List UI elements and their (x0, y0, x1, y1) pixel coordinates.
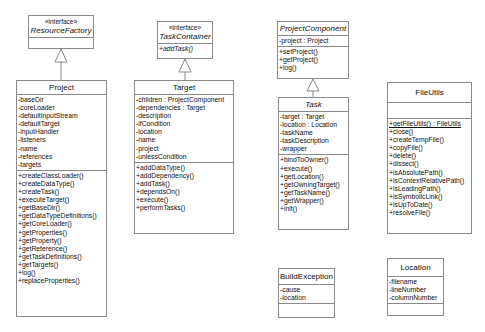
class-header: FileUtils (388, 83, 471, 103)
attribute: -name (18, 145, 105, 153)
operations-section: +bindToOwner() +execute() +getLocation()… (279, 155, 348, 214)
attribute: -listeners (18, 136, 105, 144)
operation: +setProject() (279, 48, 347, 56)
attribute: -coreLoader (18, 104, 105, 112)
attribute: -defaultInputStream (18, 112, 105, 120)
operation: +execute() (280, 165, 347, 173)
class-header: «interface» TaskContainer (158, 22, 212, 44)
class-header: Task (279, 98, 348, 112)
operation: +execute() (136, 196, 232, 204)
class-target[interactable]: Target -children : ProjectComponent -dep… (134, 80, 234, 234)
operations-section: +addDataType() +addDependency() +addTask… (135, 163, 233, 214)
attribute: -targets (18, 161, 105, 169)
operations-section: +addTask() (158, 44, 212, 54)
attribute: -cause (280, 286, 333, 294)
operations-section: +createClassLoader() +createDataType() +… (17, 171, 106, 286)
attribute: -name (136, 136, 232, 144)
attribute: -columnNumber (389, 294, 442, 302)
operation: +executeTarget() (18, 196, 105, 204)
operations-section: +setProject() +getProject() +log() (278, 47, 348, 73)
operation: +bindToOwner() (280, 156, 347, 164)
operation: +getProject() (279, 56, 347, 64)
attribute: -target : Target (280, 113, 347, 121)
operation: +isUpToDate() (389, 201, 470, 209)
class-location[interactable]: Location -filename -lineNumber -columnNu… (387, 258, 444, 316)
class-build-exception[interactable]: BuildException -cause -location (278, 268, 335, 318)
class-task-container[interactable]: «interface» TaskContainer +addTask() (157, 21, 213, 59)
inheritance-arrowhead-icon (179, 59, 191, 72)
attributes-section: -children : ProjectComponent -dependenci… (135, 95, 233, 163)
operation: +addDataType() (136, 164, 232, 172)
class-name: BuildException (280, 272, 333, 281)
operation: +getBaseDir() (18, 204, 105, 212)
operation: +addTask() (136, 180, 232, 188)
class-header: BuildException (279, 269, 334, 285)
attributes-section: -project : Project (278, 36, 348, 47)
attribute: -taskName (280, 129, 347, 137)
attribute: -location : Location (280, 121, 347, 129)
attributes-section: -cause -location (279, 285, 334, 304)
class-header: Target (135, 81, 233, 95)
empty-section (29, 38, 93, 52)
attribute: -baseDir (18, 96, 105, 104)
operation: +getReference() (18, 245, 105, 253)
class-header: Project (17, 81, 106, 95)
operation: +getProperty() (18, 237, 105, 245)
operation: +delete() (389, 152, 470, 160)
operation: +createTempFile() (389, 136, 470, 144)
operation: +createDataType() (18, 180, 105, 188)
class-name: Location (389, 263, 442, 272)
operation: +close() (389, 128, 470, 136)
operations-section (279, 304, 334, 318)
operation: +dissect() (389, 160, 470, 168)
attribute: -location (280, 294, 333, 302)
operations-section: +getFileUtils() : FileUtils +close() +cr… (388, 119, 471, 218)
class-project[interactable]: Project -baseDir -coreLoader -defaultInp… (16, 80, 107, 317)
operation: +getOwningTarget() (280, 181, 347, 189)
operation: +getTaskName() (280, 189, 347, 197)
class-name: Target (136, 83, 232, 92)
attribute: -references (18, 153, 105, 161)
stereotype: «interface» (30, 18, 92, 26)
class-header: «interface» ResourceFactory (29, 16, 93, 38)
class-resource-factory[interactable]: «interface» ResourceFactory (28, 15, 94, 49)
class-project-component[interactable]: ProjectComponent -project : Project +set… (277, 21, 349, 79)
class-header: ProjectComponent (278, 22, 348, 36)
attribute: -project : Project (279, 37, 347, 45)
stereotype: «interface» (159, 24, 211, 32)
attribute: -unlessCondition (136, 153, 232, 161)
attribute: -project (136, 145, 232, 153)
attribute: -dependencies : Target (136, 104, 232, 112)
attribute: -taskDescription (280, 137, 347, 145)
class-name: Project (18, 83, 105, 92)
attributes-section: -filename -lineNumber -columnNumber (388, 277, 443, 304)
operation: +createTask() (18, 188, 105, 196)
attributes-section (388, 103, 471, 119)
operation: +log() (279, 64, 347, 72)
class-name: TaskContainer (159, 32, 211, 41)
class-task[interactable]: Task -target : Target -location : Locati… (278, 97, 349, 230)
class-file-utils[interactable]: FileUtils +getFileUtils() : FileUtils +c… (387, 82, 472, 234)
attributes-section: -target : Target -location : Location -t… (279, 112, 348, 155)
operation: +getTaskDefinitions() (18, 253, 105, 261)
attributes-section: -baseDir -coreLoader -defaultInputStream… (17, 95, 106, 171)
operation: +getCoreLoader() (18, 220, 105, 228)
attribute: -wrapper (280, 145, 347, 153)
operation: +performTasks() (136, 204, 232, 212)
attribute: -description (136, 112, 232, 120)
inheritance-arrowhead-icon (307, 79, 319, 91)
operation: +init() (280, 205, 347, 213)
operation: +getWrapper() (280, 197, 347, 205)
operation: +addDependency() (136, 172, 232, 180)
operation: +getDataTypeDefinitions() (18, 212, 105, 220)
attribute: -lineNumber (389, 286, 442, 294)
operation: +isContextRelativePath() (389, 177, 470, 185)
attribute: -defaultTarget (18, 120, 105, 128)
operation: +getLocation() (280, 173, 347, 181)
class-name: ProjectComponent (279, 24, 347, 33)
operation: +addTask() (159, 45, 211, 53)
operation: +isLeadingPath() (389, 185, 470, 193)
class-name: FileUtils (389, 88, 470, 97)
attribute: -inputHandler (18, 128, 105, 136)
attribute: -ifCondition (136, 120, 232, 128)
